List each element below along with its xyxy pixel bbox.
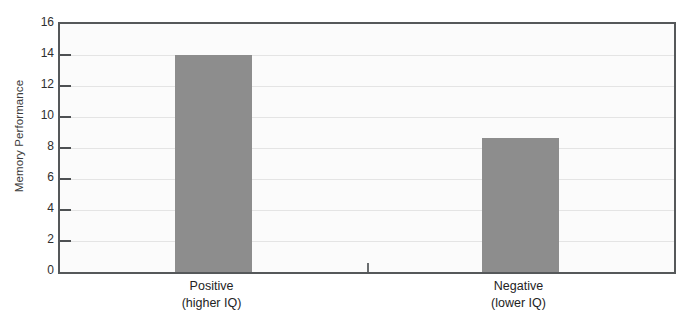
y-axis-tick-label: 16 xyxy=(41,15,54,29)
y-axis-title-text: Memory Performance xyxy=(13,80,25,192)
category-name: Positive xyxy=(182,278,242,295)
category-subtext: (lower IQ) xyxy=(491,295,546,312)
y-axis-tick-label: 12 xyxy=(41,77,54,91)
bars-layer xyxy=(60,24,674,272)
y-axis-title: Memory Performance xyxy=(6,0,32,272)
category-subtext: (higher IQ) xyxy=(182,295,242,312)
y-axis-tick-label: 4 xyxy=(47,201,54,215)
plot-area xyxy=(58,22,676,274)
y-axis-tick-labels: 0246810121416 xyxy=(30,22,54,270)
y-axis-tick-label: 8 xyxy=(47,139,54,153)
y-axis-tick-label: 14 xyxy=(41,46,54,60)
x-axis-category-labels: Positive(higher IQ)Negative(lower IQ) xyxy=(58,278,672,324)
x-axis-category-label: Positive(higher IQ) xyxy=(182,278,242,312)
y-axis-tick-label: 10 xyxy=(41,108,54,122)
y-axis-tick-label: 0 xyxy=(47,263,54,277)
category-separator-tick xyxy=(367,263,369,272)
bar xyxy=(482,138,559,272)
y-axis-tick-label: 2 xyxy=(47,232,54,246)
bar-chart-figure: Memory Performance 0246810121416 Positiv… xyxy=(0,0,690,326)
category-name: Negative xyxy=(491,278,546,295)
y-axis-tick-label: 6 xyxy=(47,170,54,184)
x-axis-category-label: Negative(lower IQ) xyxy=(491,278,546,312)
bar xyxy=(175,55,252,272)
